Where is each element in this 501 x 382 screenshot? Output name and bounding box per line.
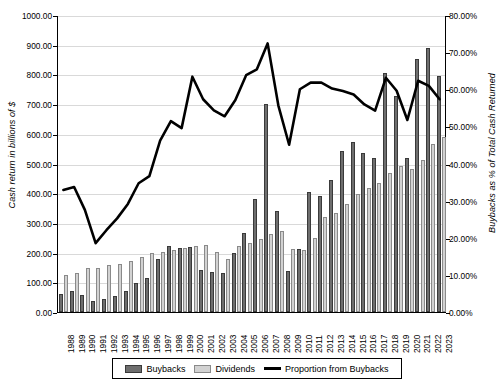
- x-axis-tick-label: 2018: [390, 335, 400, 353]
- x-axis-tick-label: 2020: [412, 335, 422, 353]
- x-axis-tick-label: 2004: [239, 335, 249, 353]
- y-axis-right-tickmark: [446, 313, 450, 314]
- x-axis-tick-label: 1995: [141, 335, 151, 353]
- x-axis-tick-label: 1993: [120, 335, 130, 353]
- y-axis-right-tick-label: 40.00%: [449, 160, 499, 170]
- x-axis-tick-label: 2002: [217, 335, 227, 353]
- plot-area: [57, 16, 446, 313]
- x-axis-tick-label: 2015: [358, 335, 368, 353]
- x-axis-tick-label: 1998: [174, 335, 184, 353]
- legend-label-proportion: Proportion from Buybacks: [285, 364, 389, 374]
- legend-label-dividends: Dividends: [215, 364, 255, 374]
- y-axis-left-tick-label: 200.00: [4, 249, 52, 259]
- x-axis-tick-label: 2023: [444, 335, 454, 353]
- y-axis-left-tick-label: 300.00: [4, 219, 52, 229]
- x-axis-tick-label: 2017: [379, 335, 389, 353]
- x-axis-tick-label: 2019: [401, 335, 411, 353]
- x-axis-tick-label: 2003: [228, 335, 238, 353]
- y-axis-right-tick-label: 10.00%: [449, 271, 499, 281]
- y-axis-right-tick-label: 50.00%: [449, 122, 499, 132]
- x-axis-tick-label: 2016: [368, 335, 378, 353]
- chart-legend: Buybacks Dividends Proportion from Buyba…: [112, 358, 402, 379]
- x-axis-tick-label: 2000: [195, 335, 205, 353]
- x-axis-tick-label: 2010: [304, 335, 314, 353]
- x-axis-tick-label: 1992: [109, 335, 119, 353]
- y-axis-left-tick-label: 1000.00: [4, 11, 52, 21]
- legend-item-buybacks: Buybacks: [125, 364, 185, 374]
- x-axis-tick-label: 2014: [347, 335, 357, 353]
- y-axis-right-tick-label: 60.00%: [449, 85, 499, 95]
- y-axis-left-tick-label: 100.00: [4, 278, 52, 288]
- x-axis-tick-label: 1994: [131, 335, 141, 353]
- y-axis-left-tick-label: 900.00: [4, 41, 52, 51]
- y-axis-right-tick-label: 80.00%: [449, 11, 499, 21]
- legend-label-buybacks: Buybacks: [146, 364, 185, 374]
- x-axis-tick-label: 2008: [282, 335, 292, 353]
- y-axis-left-tick-label: 600.00: [4, 130, 52, 140]
- x-axis-tick-label: 1999: [185, 335, 195, 353]
- x-axis-tick-label: 2022: [433, 335, 443, 353]
- y-axis-left-tick-label: 700.00: [4, 100, 52, 110]
- x-axis-tick-label: 1990: [87, 335, 97, 353]
- y-axis-left-tick-label: 400.00: [4, 189, 52, 199]
- cash-return-chart: Cash return in billions of $ Buybacks as…: [0, 0, 501, 382]
- x-axis-tick-label: 1989: [77, 335, 87, 353]
- x-axis-tick-label: 2007: [271, 335, 281, 353]
- x-axis-tick-label: 2005: [249, 335, 259, 353]
- x-axis-tick-label: 1996: [152, 335, 162, 353]
- legend-swatch-proportion-line: [264, 367, 281, 370]
- y-axis-right-tick-label: 30.00%: [449, 197, 499, 207]
- legend-swatch-dividends: [194, 365, 211, 373]
- x-axis-labels: 1988198919901991199219931994199519961997…: [57, 315, 446, 355]
- x-axis-tick-label: 2009: [293, 335, 303, 353]
- y-axis-right-tick-label: 20.00%: [449, 234, 499, 244]
- y-axis-right-tick-label: 70.00%: [449, 48, 499, 58]
- y-axis-left-tick-label: 0.00: [4, 308, 52, 318]
- line-series-proportion-from-buybacks: [58, 16, 445, 312]
- x-axis-tick-label: 1991: [98, 335, 108, 353]
- y-axis-left-tick-label: 500.00: [4, 160, 52, 170]
- legend-item-dividends: Dividends: [194, 364, 255, 374]
- x-axis-tick-label: 1997: [163, 335, 173, 353]
- x-axis-tick-label: 2013: [336, 335, 346, 353]
- y-axis-right-title: Buybacks as % of Total Cash Returned: [487, 53, 497, 253]
- x-axis-tick-label: 1988: [66, 335, 76, 353]
- legend-item-proportion: Proportion from Buybacks: [264, 364, 389, 374]
- x-axis-tick-label: 2012: [325, 335, 335, 353]
- y-axis-left-tickmark: [53, 313, 57, 314]
- y-axis-right-tick-label: 0.00%: [449, 308, 499, 318]
- x-axis-tick-label: 2001: [206, 335, 216, 353]
- y-axis-left-tick-label: 800.00: [4, 70, 52, 80]
- x-axis-tick-label: 2021: [422, 335, 432, 353]
- line-path: [63, 43, 439, 243]
- legend-swatch-buybacks: [125, 365, 142, 373]
- x-axis-tick-label: 2006: [260, 335, 270, 353]
- x-axis-tick-label: 2011: [314, 335, 324, 353]
